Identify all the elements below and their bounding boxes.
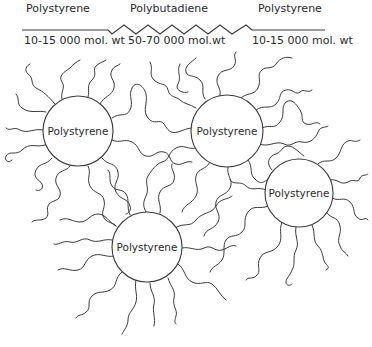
chain [76, 272, 122, 318]
chain [204, 167, 231, 236]
chain [61, 60, 80, 99]
domain-label: Polystyrene [197, 125, 258, 137]
chain [88, 60, 106, 97]
copolymer-schematic: Polystyrene Polybutadiene Polystyrene 10… [22, 2, 353, 47]
chain [330, 174, 368, 183]
chain [318, 140, 360, 164]
chain [150, 62, 196, 108]
mol-wt-right: 10-15 000 mol. wt [252, 34, 353, 47]
chain [102, 158, 131, 214]
chain [35, 158, 52, 191]
chain [6, 128, 43, 131]
chain [326, 212, 348, 256]
chain [150, 283, 155, 326]
chain [178, 264, 226, 300]
domain-label: Polystyrene [117, 241, 178, 253]
domain-label: Polystyrene [48, 125, 109, 137]
chain [16, 94, 46, 112]
chain [256, 90, 312, 110]
block-copolymer-diagram: Polystyrene Polybutadiene Polystyrene 10… [0, 0, 372, 347]
chain [186, 58, 205, 99]
polystyrene-domain-top-right: Polystyrene [191, 95, 263, 167]
chain [144, 147, 196, 212]
chain [260, 126, 328, 145]
chain [100, 64, 120, 104]
chain [230, 180, 266, 190]
segment-label-right: Polystyrene [258, 2, 322, 15]
chain [175, 196, 232, 228]
polybutadiene-zigzag-segment [108, 25, 252, 34]
chain [32, 166, 70, 222]
segment-label-left: Polystyrene [26, 2, 90, 15]
chain [217, 52, 236, 95]
domain-label: Polystyrene [269, 187, 330, 199]
polystyrene-domain-left: Polystyrene [43, 96, 113, 166]
mol-wt-middle: 50-70 000 mol.wt [128, 34, 226, 47]
chain [159, 164, 175, 213]
chain [88, 166, 116, 226]
chain [262, 101, 320, 128]
chain [182, 245, 236, 250]
chain [240, 57, 292, 99]
polystyrene-domain-bottom: Polystyrene [112, 212, 182, 282]
chain [108, 170, 130, 215]
chain [286, 227, 297, 285]
chain [312, 225, 328, 270]
chain [54, 239, 112, 245]
mol-wt-left: 10-15 000 mol. wt [24, 34, 125, 47]
polystyrene-domain-right: Polystyrene [265, 159, 333, 227]
chain [60, 214, 116, 226]
chain [168, 278, 176, 324]
segment-label-middle: Polybutadiene [130, 2, 208, 15]
chain [58, 255, 114, 271]
chain [246, 222, 282, 280]
chain [182, 162, 210, 212]
chain [112, 140, 192, 164]
chain [5, 145, 45, 162]
chain [122, 280, 137, 334]
chain [26, 64, 55, 104]
chain [332, 198, 368, 220]
